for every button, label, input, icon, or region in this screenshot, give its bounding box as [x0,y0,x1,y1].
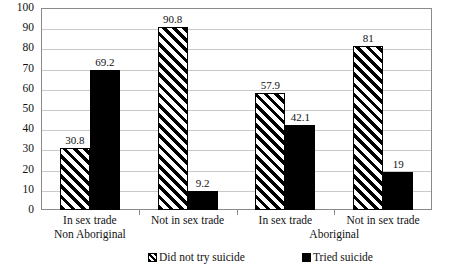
x-axis-group-labels: Non AboriginalAboriginal [41,228,432,242]
x-axis-category-label: In sex trade [259,214,313,227]
y-axis: 0102030405060708090100 [0,8,38,210]
hatch-swatch [148,253,157,262]
solid-swatch [302,253,311,262]
x-axis-tick [139,210,140,215]
x-axis-category-label: Not in sex trade [151,214,224,227]
y-axis-tick-label: 60 [23,83,35,95]
legend-label: Tried suicide [313,251,373,263]
y-axis-tick-label: 90 [23,22,35,34]
legend-item: Tried suicide [302,250,373,264]
gridline [42,49,431,50]
y-axis-tick-label: 30 [23,144,35,156]
legend-item: Did not try suicide [148,250,245,264]
gridline [42,110,431,111]
gridline [42,130,431,131]
chart-legend: Did not try suicideTried suicide [0,250,449,266]
x-axis-tick [334,210,335,215]
gridline [42,150,431,151]
x-axis-group-label: Non Aboriginal [54,228,126,241]
gridline [42,191,431,192]
y-axis-tick-label: 100 [17,2,34,14]
x-axis-tick [237,210,238,215]
legend-label: Did not try suicide [159,251,245,263]
y-axis-tick-label: 70 [23,63,35,75]
bar-chart-figure: 0102030405060708090100 30.869.290.89.257… [0,0,449,272]
x-axis-group-label: Aboriginal [309,228,359,241]
gridline [42,90,431,91]
gridline [42,70,431,71]
y-axis-tick-label: 50 [23,103,35,115]
y-axis-tick-label: 0 [28,204,34,216]
x-axis-category-label: In sex trade [63,214,117,227]
x-axis-category-label: Not in sex trade [347,214,420,227]
y-axis-tick-label: 20 [23,164,35,176]
y-axis-tick-label: 10 [23,184,35,196]
x-axis-category-labels: In sex tradeNot in sex tradeIn sex trade… [41,214,432,228]
y-axis-tick-label: 80 [23,43,35,55]
gridline [42,29,431,30]
gridline [42,171,431,172]
y-axis-tick-label: 40 [23,123,35,135]
plot-area [41,8,432,210]
